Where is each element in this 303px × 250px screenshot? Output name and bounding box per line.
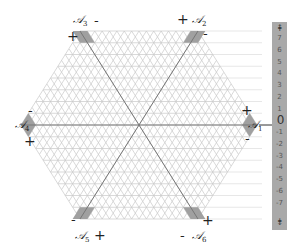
a4-minus-sign: - <box>28 104 33 117</box>
a3-minus-sign: - <box>94 14 99 27</box>
grid-line <box>161 31 238 154</box>
grid-line <box>161 96 238 219</box>
scale-tick-neg5: -5 <box>272 176 287 183</box>
a3-plus-sign: + <box>67 29 79 43</box>
scale-tick-1: 1 <box>272 106 287 113</box>
a2-plus-sign: + <box>177 12 189 26</box>
scale-tick-neg6: -6 <box>272 188 287 195</box>
scale-tick-neg3: -3 <box>272 153 287 160</box>
scale-tick-neg7: -7 <box>272 200 287 207</box>
scale-tick-6: 6 <box>272 47 287 54</box>
grid-line <box>102 31 209 201</box>
vertex-label-a4: 𝒜4 <box>15 119 29 133</box>
a4-plus-sign: + <box>24 134 36 148</box>
scale-tick-4: 4 <box>272 70 287 77</box>
scale-tick-neg2: -2 <box>272 141 287 148</box>
grid-line <box>32 31 102 143</box>
grid-line <box>102 49 209 219</box>
vertex-label-a3: 𝒜3 <box>73 14 87 28</box>
diagonal-axes <box>21 31 257 219</box>
scale-tick-3: 3 <box>272 82 287 89</box>
scale-tick-5: 5 <box>272 59 287 66</box>
grid-line <box>176 31 246 143</box>
vertex-label-a1: 𝒜1 <box>248 119 262 133</box>
a5-minus-sign: - <box>71 213 76 226</box>
scale-bar: ⇞ ⇟ 76543210-1-2-3-4-5-6-7 <box>272 22 287 230</box>
scale-up-arrow-icon: ⇞ <box>276 24 283 33</box>
grid-line <box>132 31 224 178</box>
grid-line <box>54 73 146 220</box>
a6-plus-sign: + <box>202 213 214 227</box>
grid-line <box>76 37 190 219</box>
grid-line <box>40 31 117 154</box>
vertex-label-a5: 𝒜5 <box>75 230 89 244</box>
hexagon-diagram: 𝒜1 + - 𝒜2 + - 𝒜3 + - 𝒜4 + - 𝒜5 + - 𝒜6 + … <box>0 0 303 250</box>
grid-line <box>176 108 246 220</box>
a5-plus-sign: + <box>94 228 106 242</box>
a6-minus-sign: - <box>180 229 185 242</box>
vertex-label-a6: 𝒜6 <box>192 230 206 244</box>
scale-down-arrow-icon: ⇟ <box>276 218 283 227</box>
grid-line <box>132 73 224 220</box>
scale-tick-neg4: -4 <box>272 164 287 171</box>
a1-plus-sign: + <box>241 103 253 117</box>
grid-line <box>54 31 146 178</box>
grid-line <box>69 49 176 219</box>
scale-tick-7: 7 <box>272 35 287 42</box>
a2-minus-sign: - <box>203 27 208 40</box>
grid-line <box>87 31 201 213</box>
a1-minus-sign: - <box>245 132 250 145</box>
grid-line <box>32 108 102 220</box>
scale-tick-0: 0 <box>273 114 288 126</box>
grid-line <box>40 96 117 219</box>
grid-line <box>69 31 176 201</box>
grid-line <box>76 31 190 213</box>
grid-line <box>87 37 201 219</box>
scale-tick-2: 2 <box>272 94 287 101</box>
scale-tick-neg1: -1 <box>272 129 287 136</box>
